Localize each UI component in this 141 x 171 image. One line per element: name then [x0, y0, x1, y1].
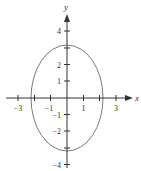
y-axis-label: y [63, 2, 68, 12]
x-tick-label: 3 [114, 104, 118, 113]
y-axis-arrow-icon [64, 14, 70, 22]
y-tick-label: −1 [52, 111, 61, 120]
x-axis-label: x [134, 93, 139, 103]
ellipse-graph: x y −3 −1 1 3 4 2 1 −1 −2 −4 [0, 0, 141, 171]
y-tick-label: 1 [57, 77, 61, 86]
x-tick-label: −3 [14, 104, 23, 113]
y-tick-label: −4 [52, 161, 61, 170]
x-tick-label: 1 [82, 104, 86, 113]
y-tick-label: 2 [57, 61, 61, 70]
x-axis-arrow-icon [125, 95, 133, 101]
graph-canvas: x y −3 −1 1 3 4 2 1 −1 −2 −4 [0, 0, 141, 171]
y-tick-label: −2 [52, 127, 61, 136]
y-tick-label: 4 [57, 27, 61, 36]
